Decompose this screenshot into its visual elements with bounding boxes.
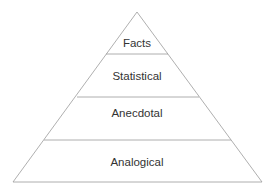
level-statistical: Statistical — [0, 69, 274, 83]
level-facts: Facts — [0, 36, 274, 50]
level-analogical: Analogical — [0, 155, 274, 169]
level-anecdotal: Anecdotal — [0, 106, 274, 120]
